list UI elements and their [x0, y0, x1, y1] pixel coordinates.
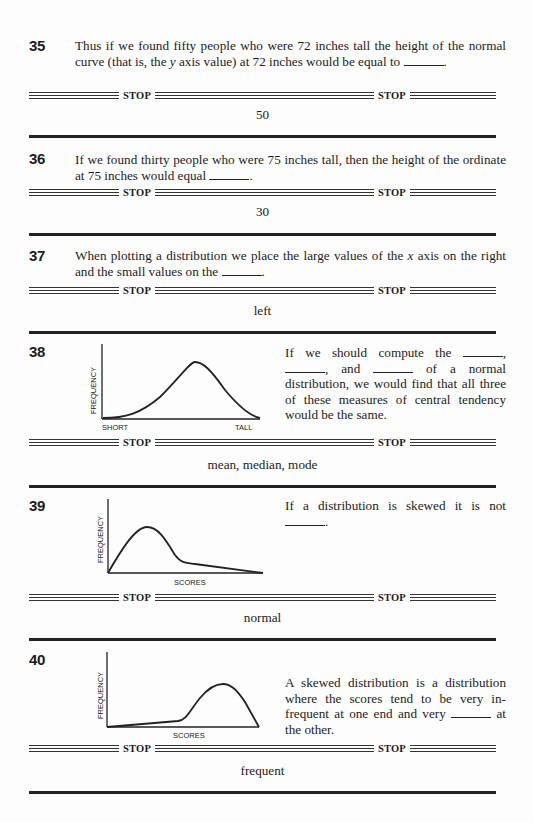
question-text: When plotting a distribution we place th… [75, 248, 408, 263]
x-axis-label: SCORES [174, 578, 206, 587]
stop-label: STOP [374, 743, 410, 754]
y-axis-label: FREQUENCY [89, 367, 98, 414]
answer-blank [463, 346, 503, 357]
question-text: . [249, 168, 252, 183]
stop-label: STOP [119, 285, 155, 296]
triple-rule [410, 439, 496, 446]
frame-number: 38 [29, 343, 45, 360]
positive-skew-figure: FREQUENCY SCORES [95, 497, 270, 589]
triple-rule [29, 92, 119, 99]
skewed-curve [107, 684, 259, 727]
triple-rule [155, 287, 374, 294]
question-text: . [262, 264, 265, 279]
question-text: axis value) at 72 inches would be equal … [176, 54, 404, 69]
answer-blank [222, 265, 262, 276]
stop-divider: STOP STOP [29, 285, 496, 295]
answer-blank [285, 515, 325, 526]
stop-label: STOP [374, 592, 410, 603]
stop-divider: STOP STOP [29, 743, 496, 753]
normal-curve [103, 362, 260, 418]
stop-label: STOP [374, 90, 410, 101]
frame-answer: frequent [29, 763, 496, 779]
triple-rule [410, 92, 496, 99]
y-axis-label: FREQUENCY [96, 516, 105, 563]
x-axis-label-right: TALL [235, 423, 252, 432]
frame-question: When plotting a distribution we place th… [75, 248, 506, 279]
x-axis-label-left: SHORT [102, 423, 129, 432]
skewed-curve [108, 527, 263, 573]
stop-label: STOP [119, 90, 155, 101]
frame-separator [29, 485, 496, 488]
frame-answer: 30 [29, 204, 496, 220]
frame-number: 37 [29, 247, 45, 264]
frame-number: 39 [29, 497, 45, 514]
question-text: . [325, 514, 328, 529]
stop-label: STOP [374, 285, 410, 296]
y-axis-label: FREQUENCY [96, 672, 105, 719]
question-text: . [444, 54, 447, 69]
question-text: If we found thirty people who were 75 in… [75, 152, 506, 183]
stop-label: STOP [119, 592, 155, 603]
stop-label: STOP [119, 187, 155, 198]
question-text: If we should compute the [285, 345, 463, 360]
stop-label: STOP [119, 743, 155, 754]
stop-label: STOP [374, 437, 410, 448]
triple-rule [155, 439, 374, 446]
triple-rule [155, 745, 374, 752]
stop-divider: STOP STOP [29, 592, 496, 602]
triple-rule [410, 745, 496, 752]
answer-blank [285, 362, 325, 373]
frame-answer: left [29, 303, 496, 319]
triple-rule [29, 439, 119, 446]
stop-divider: STOP STOP [29, 90, 496, 100]
answer-blank [209, 169, 249, 180]
triple-rule [29, 287, 119, 294]
triple-rule [410, 189, 496, 196]
triple-rule [410, 594, 496, 601]
normal-curve-figure: FREQUENCY SHORT TALL [85, 342, 270, 434]
negative-skew-figure: FREQUENCY SCORES [95, 650, 270, 742]
frame-separator [29, 331, 496, 334]
answer-blank [404, 55, 444, 66]
triple-rule [29, 594, 119, 601]
workbook-page: 35 Thus if we found fifty people who wer… [0, 0, 533, 823]
frame-question: A skewed distribution is a distribution … [285, 675, 506, 737]
triple-rule [155, 594, 374, 601]
x-axis-label: SCORES [173, 731, 205, 740]
stop-label: STOP [374, 187, 410, 198]
frame-separator [29, 233, 496, 236]
frame-answer: 50 [29, 107, 496, 123]
frame-question: Thus if we found fifty people who were 7… [75, 38, 506, 69]
question-text: If a distribution is skewed it is not [285, 498, 506, 513]
question-text: , [503, 345, 506, 360]
triple-rule [29, 745, 119, 752]
frame-question: If a distribution is skewed it is not . [285, 498, 506, 529]
triple-rule [155, 189, 374, 196]
stop-divider: STOP STOP [29, 437, 496, 447]
frame-answer: mean, median, mode [29, 457, 496, 473]
stop-label: STOP [119, 437, 155, 448]
triple-rule [155, 92, 374, 99]
answer-blank [451, 707, 491, 718]
frame-separator [29, 135, 496, 138]
frame-question: If we should compute the , , and of a no… [285, 345, 506, 423]
frame-number: 35 [29, 37, 45, 54]
frame-number: 36 [29, 150, 45, 167]
frame-question: If we found thirty people who were 75 in… [75, 152, 506, 183]
frame-answer: normal [29, 610, 496, 626]
answer-blank [373, 362, 413, 373]
frame-separator [29, 791, 496, 794]
stop-divider: STOP STOP [29, 187, 496, 197]
triple-rule [410, 287, 496, 294]
frame-separator [29, 638, 496, 641]
frame-number: 40 [29, 651, 45, 668]
question-text: , and [325, 361, 373, 376]
triple-rule [29, 189, 119, 196]
